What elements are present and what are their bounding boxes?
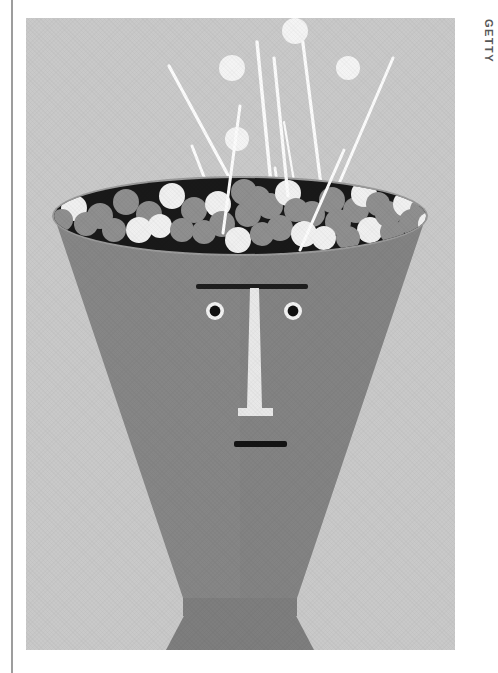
right-eye [284, 302, 302, 320]
bowl-ball [418, 212, 442, 236]
bowl-ball [102, 218, 126, 242]
bowl-ball [113, 189, 139, 215]
bowl-ball [126, 217, 152, 243]
bowl-ball [170, 218, 194, 242]
bowl-ball [159, 183, 185, 209]
artwork-canvas [26, 18, 455, 650]
getty-watermark: GETTY [481, 6, 497, 76]
left-margin-rule [11, 0, 13, 673]
left-eye-pupil [210, 306, 221, 317]
floating-ball-1 [282, 18, 308, 44]
bowl-ball [366, 192, 390, 216]
left-eye [206, 302, 224, 320]
floating-ball-group [219, 18, 360, 151]
page-root: GETTY [0, 0, 498, 673]
floating-ball-3 [336, 56, 360, 80]
watermark-label: GETTY [483, 19, 495, 63]
ray-6 [301, 28, 322, 193]
bowl-ball [246, 186, 270, 210]
bowl-ball [284, 198, 308, 222]
funnel-cone-shading [240, 216, 426, 598]
bowl-ball [225, 227, 251, 253]
illustration-plate [26, 18, 455, 650]
mouth [234, 441, 287, 447]
bowl-ball [192, 220, 216, 244]
bowl-ball [74, 212, 98, 236]
bowl-ball [148, 214, 172, 238]
funnel-base [166, 612, 314, 650]
bowl-ball [250, 222, 274, 246]
floating-ball-2 [219, 55, 245, 81]
bowl-ball [312, 226, 336, 250]
right-eye-pupil [288, 306, 299, 317]
